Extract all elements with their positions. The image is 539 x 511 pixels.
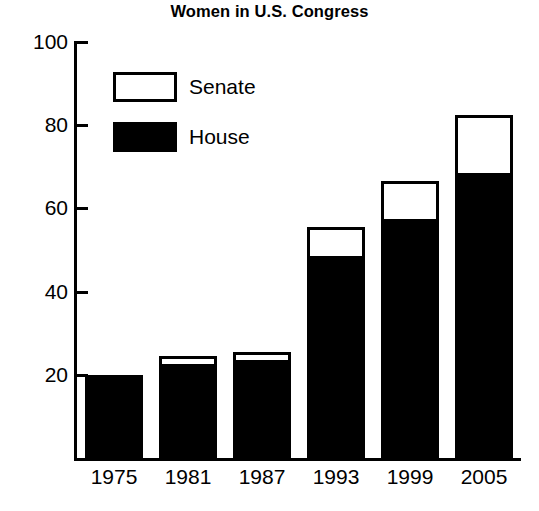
y-axis-tick-label: 80: [6, 114, 68, 135]
x-axis-tick-label: 2005: [441, 466, 527, 488]
bar-segment-house: [455, 175, 513, 458]
plot-area: [74, 42, 521, 458]
bar-segment-house: [233, 362, 291, 458]
bar-group: [233, 42, 291, 458]
bar-chart: Women in U.S. Congress 20406080100 19751…: [0, 0, 539, 511]
y-axis-tick-label: 40: [6, 281, 68, 302]
x-axis-line: [74, 458, 521, 461]
y-axis-tick-label: 60: [6, 197, 68, 218]
bar-segment-house: [307, 258, 365, 458]
bar-segment-senate: [233, 352, 291, 363]
bar-segment-senate: [159, 356, 217, 367]
chart-title: Women in U.S. Congress: [0, 2, 539, 21]
bar-group: [381, 42, 439, 458]
legend-swatch-senate: [113, 72, 177, 102]
bar-segment-senate: [307, 227, 365, 259]
legend-swatch-house: [113, 122, 177, 152]
y-axis-tick-labels: 20406080100: [0, 0, 68, 511]
y-axis-tick-label: 100: [6, 31, 68, 52]
y-axis-tick-label: 20: [6, 364, 68, 385]
bar-segment-senate: [381, 181, 439, 221]
legend-label: House: [189, 124, 250, 150]
bar-segment-senate: [455, 115, 513, 176]
bar-group: [159, 42, 217, 458]
legend-label: Senate: [189, 74, 256, 100]
bar-group: [455, 42, 513, 458]
bar-group: [85, 42, 143, 458]
bar-segment-house: [85, 375, 143, 458]
bar-segment-house: [381, 221, 439, 458]
bar-group: [307, 42, 365, 458]
bar-segment-house: [159, 366, 217, 458]
